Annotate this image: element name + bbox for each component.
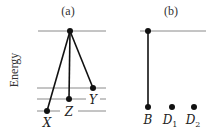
panel-a: (a) X Z Y: [37, 4, 106, 130]
energy-level-diagram: Energy (a) X Z Y (b) B D1 D2: [0, 0, 213, 137]
state-d1-dot: [169, 104, 175, 110]
panel-b: (b) B D1 D2: [140, 4, 206, 129]
upper-state-dot: [67, 28, 73, 34]
transition-to-y: [70, 31, 93, 88]
state-b-label: B: [143, 113, 153, 127]
state-x-dot: [44, 108, 50, 114]
energy-axis-label: Energy: [7, 53, 21, 87]
state-b-dot: [145, 104, 151, 110]
panel-a-title: (a): [61, 4, 74, 18]
state-x-label: X: [42, 116, 52, 130]
upper-state-dot-b: [145, 28, 151, 34]
state-z-label: Z: [64, 105, 74, 119]
state-y-dot: [90, 85, 96, 91]
state-d2-label: D2: [185, 113, 201, 129]
state-d1-label: D1: [162, 113, 178, 129]
state-y-label: Y: [89, 93, 98, 107]
state-d2-dot: [191, 104, 197, 110]
state-z-dot: [66, 96, 72, 102]
panel-b-title: (b): [164, 4, 178, 18]
transition-to-z: [69, 31, 70, 99]
